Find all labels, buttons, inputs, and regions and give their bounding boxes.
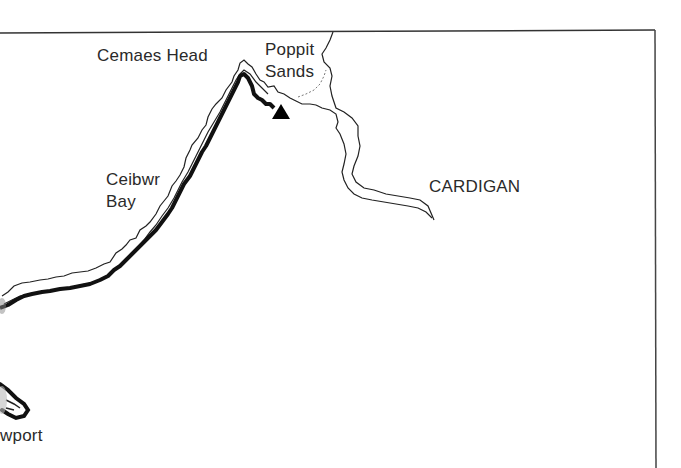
label-newport: wport bbox=[0, 426, 43, 446]
route-edge-blur bbox=[0, 298, 6, 314]
map-frame-right bbox=[655, 30, 656, 468]
label-poppit: Poppit bbox=[265, 40, 314, 60]
map-container: Cemaes Head Poppit Sands Ceibwr Bay CARD… bbox=[0, 0, 681, 468]
label-ceibwr: Ceibwr bbox=[106, 170, 160, 190]
label-cardigan: CARDIGAN bbox=[429, 177, 520, 197]
map-frame-top bbox=[0, 30, 655, 33]
label-sands: Sands bbox=[265, 62, 314, 82]
label-bay: Bay bbox=[106, 192, 136, 212]
walking-route bbox=[0, 74, 274, 308]
river-east-bank bbox=[322, 32, 434, 220]
river-west-bank bbox=[316, 105, 432, 218]
label-cemaes-head: Cemaes Head bbox=[97, 46, 208, 66]
map-canvas bbox=[0, 0, 681, 468]
